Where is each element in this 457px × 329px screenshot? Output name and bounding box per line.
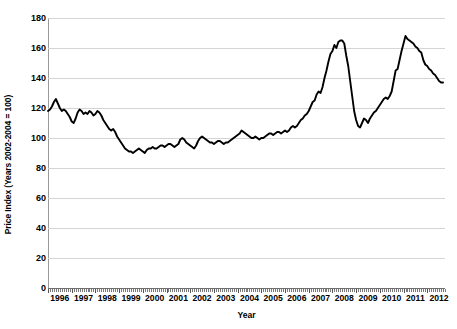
x-axis-minor-tick (184, 289, 185, 292)
x-axis-minor-tick (168, 289, 169, 292)
y-axis-tick-label: 100 (16, 134, 46, 143)
x-axis-minor-tick (70, 289, 71, 292)
x-axis-tick-labels: 1996199719981999200020012002200320042005… (0, 294, 457, 308)
x-axis-minor-tick (429, 289, 430, 292)
x-axis-major-tick (214, 289, 215, 293)
x-axis-minor-tick (291, 289, 292, 292)
x-axis-minor-tick (267, 289, 268, 292)
x-axis-minor-tick (62, 289, 63, 292)
x-axis-minor-tick (251, 289, 252, 292)
x-axis-minor-tick (210, 289, 211, 292)
x-axis-major-tick (261, 289, 262, 293)
x-axis-minor-tick (89, 289, 90, 292)
x-axis-minor-tick (390, 289, 391, 292)
x-axis-minor-tick (86, 289, 87, 292)
x-axis-minor-tick (323, 289, 324, 292)
x-axis-minor-tick (287, 289, 288, 292)
x-axis-minor-tick (407, 289, 408, 292)
x-axis-minor-tick (60, 289, 61, 292)
x-axis-minor-tick (400, 289, 401, 292)
x-axis-minor-tick (297, 289, 298, 292)
x-axis-minor-tick (352, 289, 353, 292)
x-axis-minor-tick (386, 289, 387, 292)
x-axis-minor-tick (246, 289, 247, 292)
x-axis-minor-tick (321, 289, 322, 292)
y-axis-tick-label: 80 (16, 164, 46, 173)
x-axis-minor-tick (145, 289, 146, 292)
x-axis-minor-tick (188, 289, 189, 292)
x-axis-minor-tick (249, 289, 250, 292)
x-axis-minor-tick (275, 289, 276, 292)
y-axis-tick-label: 20 (16, 254, 46, 263)
x-axis-minor-tick (419, 289, 420, 292)
y-axis-tick-label: 40 (16, 224, 46, 233)
x-axis-major-tick (143, 289, 144, 293)
x-axis-minor-tick (415, 289, 416, 292)
x-axis-minor-tick (376, 289, 377, 292)
x-axis-minor-tick (441, 289, 442, 292)
x-axis-minor-tick (340, 289, 341, 292)
x-axis-minor-tick (368, 289, 369, 292)
x-axis-minor-tick (125, 289, 126, 292)
x-axis-minor-tick (84, 289, 85, 292)
x-axis-minor-tick (372, 289, 373, 292)
x-axis-minor-tick (107, 289, 108, 292)
x-axis-minor-tick (234, 289, 235, 292)
x-axis-minor-tick (299, 289, 300, 292)
x-axis-major-tick (332, 289, 333, 293)
x-axis-minor-tick (394, 289, 395, 292)
y-axis-tick-label: 60 (16, 194, 46, 203)
x-axis-minor-tick (101, 289, 102, 292)
x-axis-minor-tick (425, 289, 426, 292)
y-axis-tick-label: 0 (16, 284, 46, 293)
y-axis-tick-label: 120 (16, 104, 46, 113)
x-axis-minor-tick (413, 289, 414, 292)
x-axis-minor-tick (247, 289, 248, 292)
x-axis-major-tick (404, 289, 405, 293)
x-axis-minor-tick (194, 289, 195, 292)
x-axis-major-tick (190, 289, 191, 293)
x-axis-minor-tick (113, 289, 114, 292)
x-axis-minor-tick (354, 289, 355, 292)
x-axis-minor-tick (295, 289, 296, 292)
x-axis-minor-tick (206, 289, 207, 292)
x-axis-minor-tick (242, 289, 243, 292)
x-axis-minor-tick (303, 289, 304, 292)
x-axis-minor-tick (109, 289, 110, 292)
x-axis-minor-tick (80, 289, 81, 292)
x-axis-minor-tick (362, 289, 363, 292)
x-axis-major-tick (380, 289, 381, 293)
x-axis-minor-tick (99, 289, 100, 292)
x-axis-minor-tick (176, 289, 177, 292)
x-axis-major-tick (427, 289, 428, 293)
x-axis-major-tick (119, 289, 120, 293)
x-axis-minor-tick (163, 289, 164, 292)
x-axis-major-tick (238, 289, 239, 293)
x-axis-minor-tick (326, 289, 327, 292)
x-axis-minor-tick (328, 289, 329, 292)
x-axis-minor-tick (271, 289, 272, 292)
x-axis-minor-tick (123, 289, 124, 292)
x-axis-minor-tick (265, 289, 266, 292)
x-axis-minor-tick (133, 289, 134, 292)
x-axis-minor-tick (301, 289, 302, 292)
x-axis-minor-tick (196, 289, 197, 292)
x-axis-minor-tick (151, 289, 152, 292)
x-axis-minor-tick (315, 289, 316, 292)
y-axis-tick-label: 160 (16, 44, 46, 53)
x-axis-major-tick (72, 289, 73, 293)
x-axis-minor-tick (115, 289, 116, 292)
x-axis-minor-tick (334, 289, 335, 292)
x-axis-minor-tick (68, 289, 69, 292)
x-axis-minor-tick (330, 289, 331, 292)
x-axis-minor-tick (82, 289, 83, 292)
x-axis-major-tick (95, 289, 96, 293)
x-axis-minor-tick (336, 289, 337, 292)
x-axis-minor-tick (129, 289, 130, 292)
x-axis-minor-tick (232, 289, 233, 292)
x-axis-minor-tick (423, 289, 424, 292)
x-axis-minor-tick (378, 289, 379, 292)
x-axis-minor-tick (289, 289, 290, 292)
x-axis-minor-tick (281, 289, 282, 292)
y-axis-tick-labels: 020406080100120140160180 (16, 0, 46, 329)
